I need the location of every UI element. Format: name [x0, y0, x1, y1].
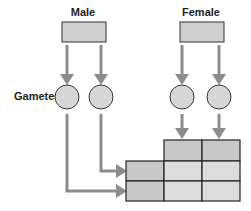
arrowhead-icon	[94, 74, 108, 85]
arrowhead-icon	[116, 184, 127, 198]
punnett-grid	[126, 140, 240, 201]
gametes-label: Gametes	[14, 90, 60, 102]
arrowhead-icon	[175, 128, 189, 139]
offspring-cell	[202, 181, 240, 201]
male-header-cell-2	[126, 181, 164, 201]
male-gamete-2-connector	[101, 114, 118, 171]
female-header-cell-1	[164, 140, 202, 161]
arrowhead-icon	[212, 128, 226, 139]
male-label: Male	[71, 6, 95, 18]
offspring-cell	[164, 181, 202, 201]
male-gamete-1	[55, 85, 79, 109]
male-gamete-2	[89, 85, 113, 109]
male-header-cell-1	[126, 161, 164, 181]
female-parent-box	[180, 22, 224, 42]
female-gamete-1	[170, 85, 194, 109]
arrowhead-icon	[116, 164, 127, 178]
punnett-diagram: Male Female Gametes	[0, 0, 251, 211]
female-gamete-2	[207, 85, 231, 109]
offspring-cell	[164, 161, 202, 181]
offspring-cell	[202, 161, 240, 181]
arrowhead-icon	[60, 74, 74, 85]
female-header-cell-2	[202, 140, 240, 161]
arrowhead-icon	[212, 74, 226, 85]
female-label: Female	[182, 6, 220, 18]
male-gamete-1-connector	[67, 114, 118, 191]
male-parent-box	[62, 22, 106, 42]
arrowhead-icon	[175, 74, 189, 85]
